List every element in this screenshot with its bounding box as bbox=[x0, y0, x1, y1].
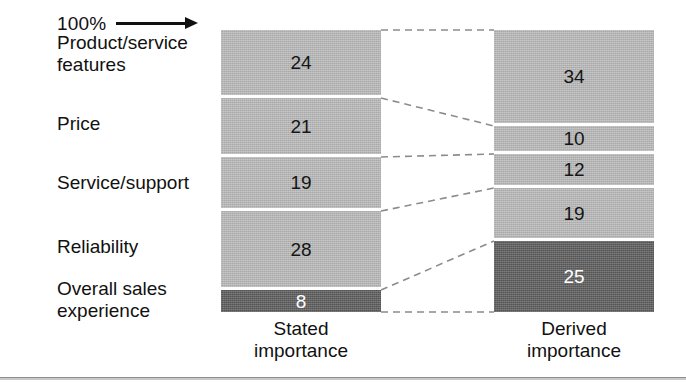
bar-segment-stated-overall-sales-experience[interactable]: 8 bbox=[221, 290, 381, 312]
connector-boundary-2 bbox=[381, 154, 494, 157]
bar-value: 24 bbox=[290, 53, 311, 72]
bar-segment-derived-price[interactable]: 10 bbox=[494, 126, 654, 154]
bar-value: 10 bbox=[563, 129, 584, 148]
column-derived-importance: 34 10 12 19 25 bbox=[494, 30, 654, 312]
column-stated-importance: 24 21 19 28 8 bbox=[221, 30, 381, 312]
bar-value: 8 bbox=[296, 292, 307, 311]
connector-boundary-3 bbox=[381, 188, 494, 211]
connector-boundary-4 bbox=[381, 241, 494, 290]
caption-stated-importance: Stated importance bbox=[201, 318, 401, 362]
bar-value: 21 bbox=[290, 117, 311, 136]
connector-boundary-1 bbox=[381, 98, 494, 126]
bar-segment-stated-product-service-features[interactable]: 24 bbox=[221, 30, 381, 98]
bar-segment-derived-product-service-features[interactable]: 34 bbox=[494, 30, 654, 126]
bar-segment-stated-service-support[interactable]: 19 bbox=[221, 157, 381, 211]
bar-segment-derived-reliability[interactable]: 19 bbox=[494, 188, 654, 241]
bar-value: 12 bbox=[563, 160, 584, 179]
bar-segment-derived-service-support[interactable]: 12 bbox=[494, 154, 654, 188]
bar-value: 19 bbox=[563, 204, 584, 223]
bar-segment-derived-overall-sales-experience[interactable]: 25 bbox=[494, 241, 654, 312]
bar-segment-stated-price[interactable]: 21 bbox=[221, 98, 381, 157]
bar-value: 28 bbox=[290, 240, 311, 259]
bar-value: 25 bbox=[563, 267, 584, 286]
bar-segment-stated-reliability[interactable]: 28 bbox=[221, 211, 381, 290]
bar-value: 19 bbox=[290, 173, 311, 192]
figure-stated-vs-derived-importance: 100% Product/service features Price Serv… bbox=[0, 0, 686, 386]
bottom-divider bbox=[0, 377, 686, 380]
caption-derived-importance: Derived importance bbox=[474, 318, 674, 362]
bar-value: 34 bbox=[563, 67, 584, 86]
